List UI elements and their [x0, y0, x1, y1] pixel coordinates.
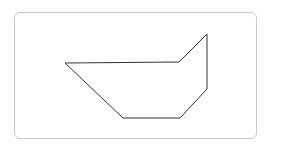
- diagram-canvas: [0, 0, 281, 153]
- boat-shaped-polygon: [65, 34, 207, 118]
